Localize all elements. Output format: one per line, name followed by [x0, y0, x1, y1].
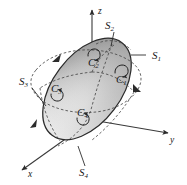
- ellipsoid-diagram-svg: z y x: [0, 0, 187, 185]
- arrow-right-icon: [133, 84, 141, 92]
- arrow-lower-left-icon: [30, 119, 37, 128]
- s4-leader-line: [78, 146, 85, 166]
- s3-leader-line: [32, 88, 46, 106]
- ellipsoid-rim-shadow: [25, 22, 149, 156]
- z-axis-label: z: [97, 6, 102, 16]
- figure-container: z y x: [0, 0, 187, 185]
- x-axis-label: x: [27, 169, 33, 179]
- axis-y: y: [92, 120, 175, 145]
- ellipsoid-body: [25, 22, 149, 156]
- surface-label-s2: S2: [105, 19, 115, 33]
- surface-label-s3: S3: [19, 75, 29, 89]
- surface-label-s4: S4: [79, 166, 89, 180]
- surface-label-s1: S1: [152, 49, 161, 63]
- y-axis-label: y: [169, 135, 175, 145]
